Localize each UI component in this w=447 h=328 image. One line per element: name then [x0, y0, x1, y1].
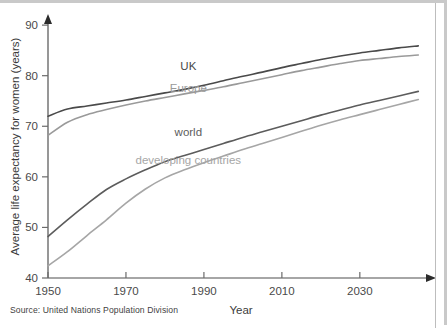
y-axis-tick-label: 60: [25, 171, 38, 183]
series-label-europe: Europe: [170, 82, 207, 94]
series-line-developing-countries: [48, 99, 418, 265]
y-axis-tick-label: 70: [25, 120, 38, 132]
y-axis-tick-label: 80: [25, 70, 38, 82]
series-line-uk: [48, 46, 418, 116]
line-chart: 40506070809019501970199020102030YearAver…: [0, 3, 447, 328]
x-axis-tick-label: 2010: [269, 285, 295, 297]
y-axis-tick-label: 50: [25, 221, 38, 233]
series-label-world: world: [174, 126, 202, 138]
series-line-europe: [48, 55, 418, 135]
y-axis-title: Average life expectancy for women (years…: [9, 37, 21, 255]
x-axis-title: Year: [229, 304, 252, 316]
x-axis-tick-label: 1970: [113, 285, 139, 297]
y-axis-arrow-icon: [44, 14, 52, 24]
right-divider-rule: [435, 3, 436, 328]
series-label-developing-countries: developing countries: [136, 154, 242, 166]
source-note: Source: United Nations Population Divisi…: [10, 305, 178, 315]
x-axis-tick-label: 1950: [35, 285, 61, 297]
x-axis-tick-label: 2030: [347, 285, 373, 297]
series-label-uk: UK: [180, 60, 196, 72]
y-axis-tick-label: 90: [25, 19, 38, 31]
x-axis-tick-label: 1990: [191, 285, 217, 297]
y-axis-tick-label: 40: [25, 272, 38, 284]
